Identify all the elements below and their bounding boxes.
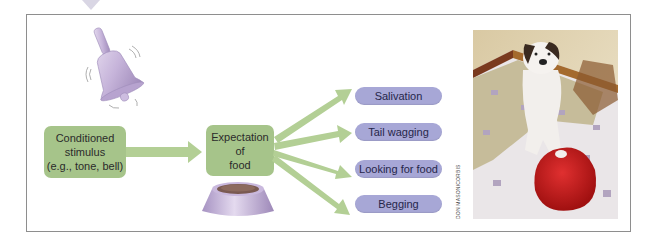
- response-tail-wagging: Tail wagging: [355, 123, 442, 141]
- response-looking-for-food: Looking for food: [355, 160, 442, 178]
- dog-photo-illustration: [473, 30, 618, 219]
- bell-icon: [79, 21, 149, 113]
- dog-photo: [473, 30, 618, 219]
- expectation-line-2: of: [235, 144, 244, 158]
- stimulus-line-2: stimulus: [65, 145, 105, 159]
- arrow-stimulus-to-expectation: [126, 139, 206, 165]
- expectation-line-3: food: [229, 158, 250, 172]
- top-pointer-marker: [82, 0, 100, 10]
- figure-frame: Conditioned stimulus (e.g., tone, bell) …: [26, 14, 631, 232]
- photo-credit: DON MASON/CORBIS: [455, 164, 461, 219]
- expectation-line-1: Expectation: [211, 130, 268, 144]
- response-begging: Begging: [355, 195, 442, 213]
- stimulus-line-3: (e.g., tone, bell): [47, 159, 123, 173]
- branch-arrows: [272, 83, 357, 218]
- expectation-of-food-box: Expectation of food: [206, 125, 274, 176]
- response-salivation: Salivation: [355, 87, 442, 105]
- stimulus-line-1: Conditioned: [56, 131, 115, 145]
- food-bowl-icon: [200, 181, 276, 219]
- conditioned-stimulus-box: Conditioned stimulus (e.g., tone, bell): [44, 126, 126, 178]
